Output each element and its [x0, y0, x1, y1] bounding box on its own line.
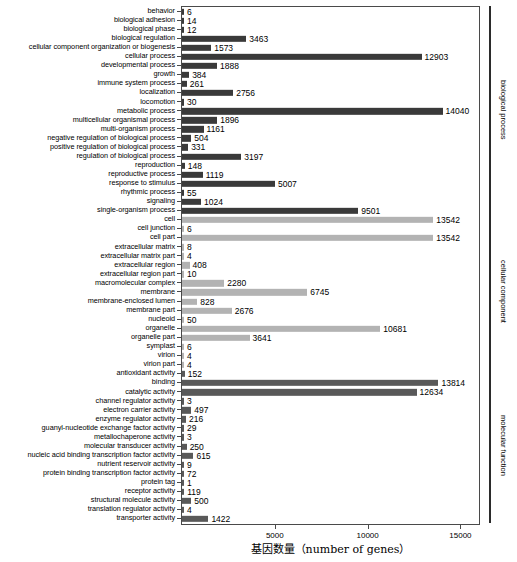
bar-value-label: 1888	[220, 62, 239, 71]
category-label-row: translation regulator activity	[0, 504, 181, 513]
category-label: metabolic process	[117, 107, 181, 114]
category-label-row: nutrient reservoir activity	[0, 459, 181, 468]
category-label-row: multi-organism process	[0, 124, 181, 133]
bar	[182, 54, 422, 60]
group-bracket-line	[489, 215, 491, 369]
bar-row: 4	[182, 252, 479, 261]
category-label-row: organelle	[0, 323, 181, 332]
bar-value-label: 6	[187, 225, 192, 234]
bar	[182, 99, 184, 105]
category-label-row: positive regulation of biological proces…	[0, 142, 181, 151]
category-label-row: biological phase	[0, 24, 181, 33]
category-label: transporter activity	[116, 514, 181, 521]
bar	[182, 135, 191, 141]
category-label: response to stimulus	[109, 179, 181, 186]
bar-value-label: 13814	[441, 379, 465, 388]
bar-value-label: 10	[187, 270, 196, 279]
bar-row: 216	[182, 415, 479, 424]
bar	[182, 90, 233, 96]
category-label-row: nucleoid	[0, 314, 181, 323]
bar-row: 72	[182, 469, 479, 478]
bar-value-label: 13542	[436, 216, 460, 225]
bar-row: 1161	[182, 125, 479, 134]
bar	[182, 181, 275, 187]
bar	[182, 471, 184, 477]
bar-row: 615	[182, 451, 479, 460]
category-label-row: virion	[0, 350, 181, 359]
category-label: extracellular region	[114, 261, 181, 268]
bar	[182, 36, 246, 42]
category-label: guanyl-nucleotide exchange factor activi…	[42, 424, 181, 431]
category-label: organelle	[145, 324, 181, 331]
category-label-row: cell part	[0, 233, 181, 242]
bar-row: 9501	[182, 206, 479, 215]
category-label: positive regulation of biological proces…	[50, 143, 181, 150]
category-label-row: reproduction	[0, 160, 181, 169]
group-bracket-line	[489, 369, 491, 523]
category-label-row: cellular component organization or bioge…	[0, 42, 181, 51]
category-label-row: regulation of biological process	[0, 151, 181, 160]
bar-row: 6745	[182, 288, 479, 297]
category-label-row: signaling	[0, 196, 181, 205]
bar-row: 30	[182, 98, 479, 107]
group-bracket: molecular function	[487, 369, 517, 523]
bar-value-label: 50	[187, 315, 196, 324]
bar	[182, 480, 184, 486]
category-label-row: extracellular matrix part	[0, 251, 181, 260]
bar-row: 504	[182, 134, 479, 143]
category-label-row: cell junction	[0, 224, 181, 233]
category-label: extracellular matrix	[115, 243, 181, 250]
bar	[182, 72, 189, 78]
bar	[182, 452, 193, 458]
bar-row: 3	[182, 433, 479, 442]
category-label: membrane-enclosed lumen	[88, 297, 181, 304]
category-label-row: response to stimulus	[0, 178, 181, 187]
x-tick-label: 15000	[449, 531, 471, 540]
category-label: electron carrier activity	[103, 406, 181, 413]
bar	[182, 425, 184, 431]
bar-row: 12	[182, 25, 479, 34]
bar-value-label: 152	[188, 370, 202, 379]
bar-row: 9	[182, 460, 479, 469]
category-label-row: cellular process	[0, 51, 181, 60]
category-label: extracellular matrix part	[100, 252, 181, 259]
bar	[182, 335, 250, 341]
category-label-row: guanyl-nucleotide exchange factor activi…	[0, 423, 181, 432]
bar-value-label: 1422	[211, 515, 230, 524]
x-tick	[368, 525, 369, 529]
bar-row: 13542	[182, 215, 479, 224]
category-label-row: membrane part	[0, 305, 181, 314]
bar-row: 3	[182, 397, 479, 406]
bar	[182, 489, 184, 495]
category-label: enzyme regulator activity	[96, 415, 181, 422]
category-label: cell junction	[138, 224, 181, 231]
group-bracket-label: biological process	[496, 6, 510, 215]
bar-row: 119	[182, 487, 479, 496]
category-label: nutrient reservoir activity	[97, 460, 181, 467]
bar	[182, 353, 184, 359]
category-label-row: channel regulator activity	[0, 396, 181, 405]
bar-row: 50	[182, 315, 479, 324]
bar-row: 29	[182, 424, 479, 433]
category-label-row: symplast	[0, 341, 181, 350]
category-label-row: organelle part	[0, 332, 181, 341]
group-bracket-label: molecular function	[496, 369, 510, 523]
bar	[182, 326, 380, 332]
bar	[182, 443, 187, 449]
bar-row: 13542	[182, 234, 479, 243]
bar-row: 6	[182, 225, 479, 234]
category-label: negative regulation of biological proces…	[47, 134, 181, 141]
category-label: translation regulator activity	[88, 505, 181, 512]
bar-row: 384	[182, 70, 479, 79]
bar-row: 261	[182, 80, 479, 89]
bar	[182, 389, 417, 395]
category-label: biological regulation	[112, 34, 181, 41]
bar-value-label: 1119	[206, 170, 224, 179]
bar-row: 12634	[182, 388, 479, 397]
category-label-row: negative regulation of biological proces…	[0, 133, 181, 142]
bar	[182, 153, 241, 159]
x-tick	[275, 525, 276, 529]
bar-row: 4	[182, 360, 479, 369]
category-label-row: immune system process	[0, 79, 181, 88]
category-label-row: membrane	[0, 287, 181, 296]
